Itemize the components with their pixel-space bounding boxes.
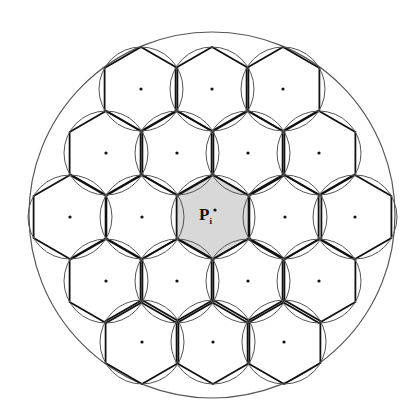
cell-center-dot: [175, 279, 178, 282]
cell-center-dot: [68, 215, 71, 218]
cell-center-dot: [210, 87, 213, 90]
center-cell-label: Pi: [199, 205, 212, 226]
cell-center-dot: [317, 151, 320, 154]
cell-center-dot: [281, 87, 284, 90]
cell-center-dot: [211, 340, 214, 343]
cell-center-dot: [353, 215, 356, 218]
center-hexagon-cell: [177, 175, 250, 259]
cell-center-dot: [246, 151, 249, 154]
cell-center-dot: [317, 279, 320, 282]
cell-center-dot: [246, 279, 249, 282]
cell-center-dot: [283, 215, 286, 218]
cell-center-dot: [104, 151, 107, 154]
cell-center-dot: [140, 215, 143, 218]
center-cell-label-sub: i: [209, 216, 212, 226]
hexagonal-cell-diagram: Pi: [0, 0, 420, 419]
cell-center-dot: [104, 279, 107, 282]
center-cell-label-main: P: [199, 205, 209, 224]
cell-center-dot: [139, 87, 142, 90]
cell-center-dot: [140, 340, 143, 343]
cell-center-dot: [282, 340, 285, 343]
center-point-dot: [213, 208, 216, 211]
cell-center-dot: [175, 151, 178, 154]
